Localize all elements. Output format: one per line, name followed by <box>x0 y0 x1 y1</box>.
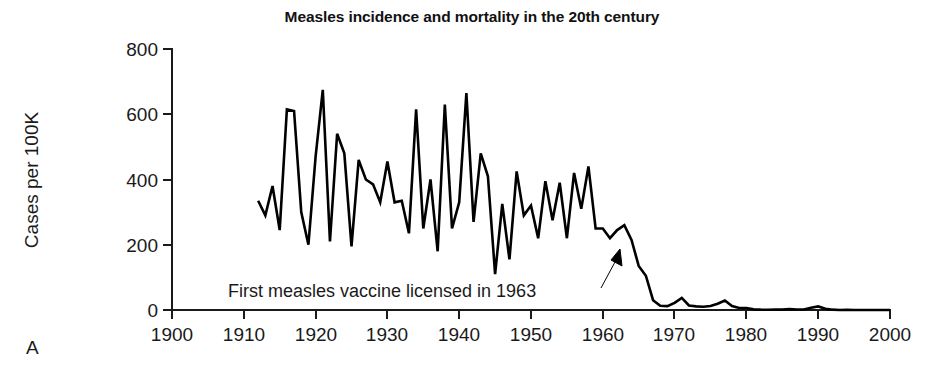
x-tick-label-1980: 1980 <box>725 324 767 345</box>
y-axis-ticks <box>164 49 172 310</box>
x-tick-label-1900: 1900 <box>151 324 193 345</box>
x-axis-tick-labels: 1900 1910 1920 1930 1940 1950 1960 1970 … <box>151 324 911 345</box>
y-tick-label-800: 800 <box>126 39 158 60</box>
x-tick-label-1940: 1940 <box>438 324 480 345</box>
y-tick-label-0: 0 <box>147 300 158 321</box>
x-tick-label-1920: 1920 <box>295 324 337 345</box>
x-tick-label-1990: 1990 <box>797 324 839 345</box>
y-axis-title: Cases per 100K <box>21 112 42 249</box>
vaccine-annotation-arrow <box>601 249 622 288</box>
x-axis-ticks <box>172 310 890 318</box>
measles-cases-line <box>258 90 890 310</box>
x-tick-label-1930: 1930 <box>366 324 408 345</box>
x-tick-label-2000: 2000 <box>869 324 911 345</box>
panel-label: A <box>26 337 39 359</box>
y-axis-tick-labels: 0 200 400 600 800 <box>126 39 158 321</box>
x-tick-label-1970: 1970 <box>653 324 695 345</box>
x-tick-label-1910: 1910 <box>223 324 265 345</box>
y-tick-label-400: 400 <box>126 170 158 191</box>
y-tick-label-600: 600 <box>126 104 158 125</box>
measles-incidence-line-chart: 0 200 400 600 800 Cases per 100K 1900 19… <box>0 0 944 377</box>
figure-root: Measles incidence and mortality in the 2… <box>0 0 944 377</box>
vaccine-annotation-label: First measles vaccine licensed in 1963 <box>228 281 536 301</box>
y-tick-label-200: 200 <box>126 235 158 256</box>
x-tick-label-1960: 1960 <box>582 324 624 345</box>
x-tick-label-1950: 1950 <box>510 324 552 345</box>
